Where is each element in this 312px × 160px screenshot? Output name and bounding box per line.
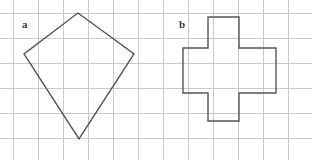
geometry-figure: a b bbox=[0, 0, 312, 160]
shape-label-b: b bbox=[179, 19, 185, 30]
shape-label-a: a bbox=[22, 19, 28, 30]
shapes-overlay bbox=[0, 0, 312, 160]
shape-a-kite bbox=[24, 13, 134, 139]
shape-b-cross bbox=[183, 17, 276, 121]
